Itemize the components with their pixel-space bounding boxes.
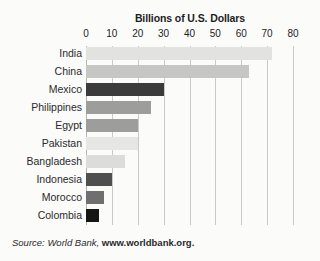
gridline: [293, 46, 294, 225]
bar: [86, 191, 104, 204]
plot-area: [86, 46, 293, 225]
bar: [86, 155, 125, 168]
source-url: www.worldbank.org.: [102, 237, 195, 248]
source-prefix: Source: World Bank,: [12, 237, 102, 248]
x-tick-label: 80: [287, 28, 298, 39]
bar-row: [86, 154, 293, 171]
bar: [86, 101, 151, 114]
bar: [86, 119, 138, 132]
bar-series: [86, 46, 293, 225]
bar-row: [86, 100, 293, 117]
category-label: Egypt: [6, 119, 82, 131]
source-note: Source: World Bank, www.worldbank.org.: [12, 237, 194, 248]
chart-figure: Billions of U.S. Dollars 010203040506070…: [0, 0, 320, 261]
bar: [86, 209, 99, 222]
category-label: Bangladesh: [6, 155, 82, 167]
x-axis-tick-labels: 01020304050607080: [86, 28, 293, 42]
category-label: Mexico: [6, 83, 82, 95]
bar: [86, 47, 272, 60]
category-label: Pakistan: [6, 137, 82, 149]
category-label: Philippines: [6, 101, 82, 113]
bar-row: [86, 118, 293, 135]
bar-row: [86, 190, 293, 207]
x-tick-label: 40: [184, 28, 195, 39]
bar: [86, 65, 249, 78]
chart-title: Billions of U.S. Dollars: [86, 12, 294, 24]
category-label: India: [6, 47, 82, 59]
bar-row: [86, 172, 293, 189]
x-tick-label: 0: [83, 28, 89, 39]
bar-row: [86, 82, 293, 99]
bar: [86, 83, 164, 96]
category-label: China: [6, 65, 82, 77]
bar: [86, 137, 138, 150]
bar-row: [86, 64, 293, 81]
bar: [86, 173, 112, 186]
category-label: Morocco: [6, 191, 82, 203]
bar-row: [86, 136, 293, 153]
x-tick-label: 20: [132, 28, 143, 39]
category-axis-labels: IndiaChinaMexicoPhilippinesEgyptPakistan…: [6, 46, 82, 225]
category-label: Colombia: [6, 209, 82, 221]
x-tick-label: 50: [210, 28, 221, 39]
x-tick-label: 10: [106, 28, 117, 39]
x-tick-label: 60: [236, 28, 247, 39]
bar-row: [86, 46, 293, 63]
bar-row: [86, 208, 293, 225]
x-tick-label: 70: [262, 28, 273, 39]
x-tick-label: 30: [158, 28, 169, 39]
category-label: Indonesia: [6, 173, 82, 185]
